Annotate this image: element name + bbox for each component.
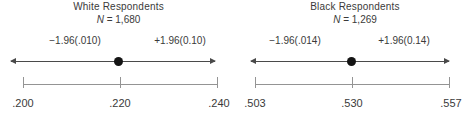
axis-line [23, 84, 218, 85]
axis-tick [23, 77, 24, 88]
lower-bound-annotation: −1.96(.014) [253, 35, 337, 46]
point-estimate-dot [347, 57, 356, 66]
right-arrowhead-icon [444, 58, 450, 64]
n-value: = 1,269 [340, 14, 376, 25]
confidence-interval-arrow [251, 61, 449, 62]
panel-title: Black Respondents [237, 1, 473, 12]
n-symbol: N [97, 14, 104, 25]
axis-line [255, 84, 450, 85]
lower-bound-annotation: −1.96(.010) [33, 35, 117, 46]
confidence-interval-arrow [11, 61, 215, 62]
left-arrowhead-icon [250, 58, 256, 64]
panel-title: White Respondents [0, 1, 237, 12]
tick-label: .220 [98, 97, 142, 109]
confidence-interval-figure: White Respondents N = 1,680 −1.96(.010) … [0, 0, 473, 117]
sample-size-label: N = 1,680 [0, 14, 237, 25]
panel-black-respondents: Black Respondents N = 1,269 −1.96(.014) … [237, 0, 473, 117]
point-estimate-dot [114, 57, 123, 66]
axis-tick [120, 77, 121, 88]
upper-bound-annotation: +1.96(0.14) [362, 35, 446, 46]
right-arrowhead-icon [210, 58, 216, 64]
axis-tick [217, 77, 218, 88]
tick-label: .530 [330, 97, 374, 109]
sample-size-label: N = 1,269 [237, 14, 473, 25]
axis-tick [449, 77, 450, 88]
tick-label: .557 [429, 97, 473, 109]
tick-label: .200 [1, 97, 45, 109]
n-value: = 1,680 [104, 14, 140, 25]
panel-white-respondents: White Respondents N = 1,680 −1.96(.010) … [0, 0, 237, 117]
upper-bound-annotation: +1.96(0.10) [138, 35, 222, 46]
tick-label: .503 [233, 97, 277, 109]
axis-tick [352, 77, 353, 88]
axis-tick [255, 77, 256, 88]
left-arrowhead-icon [10, 58, 16, 64]
